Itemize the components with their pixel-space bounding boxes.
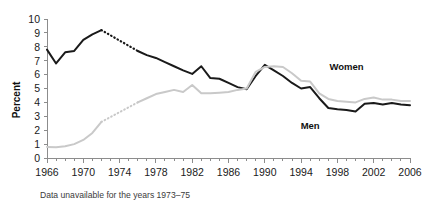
x-tick-label: 1990 — [253, 166, 277, 178]
y-tick-label: 3 — [34, 110, 40, 122]
x-tick-label: 1970 — [72, 166, 96, 178]
x-tick-label: 1974 — [108, 166, 132, 178]
y-tick-label: 4 — [34, 96, 40, 108]
series-label-men: Men — [301, 120, 320, 131]
y-tick-label: 5 — [34, 82, 40, 94]
x-tick-label: 2002 — [362, 166, 386, 178]
y-tick-label: 10 — [28, 13, 40, 25]
x-tick-label: 1982 — [181, 166, 205, 178]
y-tick-label: 2 — [34, 124, 40, 136]
chart-footnote: Data unavailable for the years 1973–75 — [40, 190, 190, 200]
y-tick-label: 6 — [34, 68, 40, 80]
series-label-women: Women — [329, 61, 363, 72]
y-tick-label: 9 — [34, 27, 40, 39]
y-tick-label: 8 — [34, 41, 40, 53]
x-tick-label: 1994 — [289, 166, 313, 178]
x-tick-label: 2006 — [398, 166, 422, 178]
y-axis-title: Percent — [11, 81, 22, 118]
chart-background — [0, 0, 433, 213]
line-chart: 012345678910 196619701974197819821986199… — [0, 0, 433, 213]
y-tick-label: 7 — [34, 55, 40, 67]
x-tick-label: 1986 — [217, 166, 241, 178]
x-tick-label: 1978 — [144, 166, 168, 178]
chart-canvas: 012345678910 196619701974197819821986199… — [0, 0, 433, 213]
x-tick-label: 1998 — [326, 166, 350, 178]
y-tick-label: 0 — [34, 152, 40, 164]
y-tick-label: 1 — [34, 138, 40, 150]
x-tick-label: 1966 — [35, 166, 59, 178]
